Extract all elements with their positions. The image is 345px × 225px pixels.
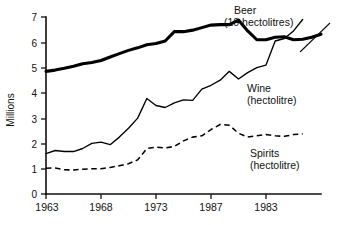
x-tick-label-1983: 1983	[254, 201, 278, 213]
y-tick-label-2: 2	[31, 139, 37, 150]
y-tick-label-4: 4	[31, 88, 37, 99]
y-axis-title: Millions	[5, 93, 16, 126]
spirits-label-line2: (hectolitre)	[250, 159, 300, 171]
y-tick-label-0: 0	[31, 189, 37, 200]
chart-container: 0 1 2 3 4 5 6 7 Millions 1963 1968 1973 …	[0, 0, 345, 225]
wine-label-line1: Wine	[247, 82, 271, 94]
x-tick-label-1987: 1987	[199, 201, 223, 213]
y-tick-label-6: 6	[31, 38, 37, 49]
beer-label-line2: (10 hectolitres)	[224, 16, 293, 28]
y-tick-label-1: 1	[31, 164, 37, 175]
y-tick-label-3: 3	[31, 114, 37, 125]
x-tick-label-1963: 1963	[35, 201, 59, 213]
x-tick-label-1968: 1968	[89, 201, 113, 213]
spirits-label-line1: Spirits	[250, 147, 279, 159]
y-tick-label-5: 5	[31, 63, 37, 74]
x-tick-label-1973: 1973	[144, 201, 168, 213]
y-tick-label-7: 7	[31, 12, 37, 23]
beer-label-line1: Beer	[234, 4, 257, 16]
line-chart-plot: 0 1 2 3 4 5 6 7 Millions 1963 1968 1973 …	[0, 0, 345, 225]
wine-label-line2: (hectolitre)	[247, 94, 297, 106]
